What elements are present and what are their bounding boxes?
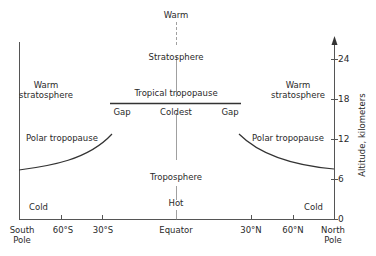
x-label-north-pole: North Pole (321, 225, 345, 245)
y-tick-12: 12 (338, 134, 349, 144)
y-axis-title: Altitude, kilometers (357, 85, 367, 185)
gap-right-label: Gap (221, 107, 238, 117)
polar-tropopause-right-label: Polar tropopause (252, 133, 324, 143)
x-label-south-pole: South Pole (10, 225, 35, 245)
warm-top-label: Warm (164, 10, 189, 20)
x-label-30n: 30°N (240, 225, 261, 235)
y-tick-18: 18 (338, 94, 349, 104)
altitude-axis-arrow-icon (332, 36, 338, 45)
tropical-tropopause-label: Tropical tropopause (134, 88, 217, 98)
polar-tropopause-left-label: Polar tropopause (26, 133, 98, 143)
coldest-label: Coldest (160, 107, 192, 117)
cold-right-label: Cold (304, 202, 323, 212)
x-axis-ticks (62, 215, 294, 220)
warm-stratosphere-right-label: Warm stratosphere (271, 80, 325, 100)
warm-stratosphere-left-label: Warm stratosphere (19, 80, 73, 100)
troposphere-label: Troposphere (150, 172, 202, 182)
x-label-30s: 30°S (93, 225, 113, 235)
x-label-60s: 60°S (53, 225, 73, 235)
hot-label: Hot (169, 198, 184, 208)
y-tick-24: 24 (338, 54, 349, 64)
stratosphere-label: Stratosphere (149, 52, 204, 62)
x-label-equator: Equator (159, 225, 192, 235)
x-label-60n: 60°N (282, 225, 303, 235)
y-tick-6: 6 (338, 174, 344, 184)
gap-left-label: Gap (113, 107, 130, 117)
cold-left-label: Cold (29, 202, 48, 212)
y-tick-0: 0 (338, 214, 344, 224)
diagram-canvas (0, 0, 376, 256)
